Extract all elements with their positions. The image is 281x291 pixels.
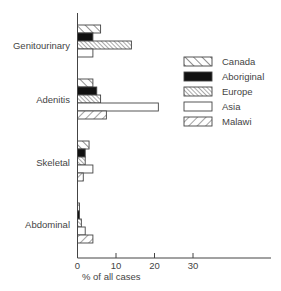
x-tick-label: 10 — [111, 260, 122, 271]
x-tick-label: 20 — [149, 260, 160, 271]
legend-swatch-asia — [184, 102, 212, 111]
bar-canada-genitourinary — [78, 25, 101, 33]
bars-group — [78, 25, 159, 243]
bar-europe-genitourinary — [78, 41, 132, 49]
bar-asia-genitourinary — [78, 49, 93, 57]
bar-malawi-skeletal — [78, 173, 84, 181]
legend-label-asia: Asia — [222, 101, 241, 112]
bar-chart: GenitourinaryAdenitisSkeletalAbdominal 0… — [0, 0, 281, 291]
bar-malawi-abdominal — [78, 235, 93, 243]
bar-europe-skeletal — [78, 157, 86, 165]
bar-europe-abdominal — [78, 219, 82, 227]
category-label: Genitourinary — [13, 40, 70, 51]
x-tick-label: 0 — [75, 260, 80, 271]
bar-asia-adenitis — [78, 103, 159, 111]
bar-aboriginal-genitourinary — [78, 33, 93, 41]
legend-label-europe: Europe — [222, 86, 253, 97]
legend-swatch-europe — [184, 87, 212, 96]
bar-aboriginal-skeletal — [78, 149, 86, 157]
legend-swatch-aboriginal — [184, 72, 212, 81]
legend: CanadaAboriginalEuropeAsiaMalawi — [184, 56, 264, 127]
x-tick-label: 30 — [188, 260, 199, 271]
category-label: Adenitis — [36, 94, 70, 105]
legend-swatch-canada — [184, 57, 212, 66]
legend-label-canada: Canada — [222, 56, 256, 67]
bar-canada-skeletal — [78, 141, 90, 149]
x-axis-label: % of all cases — [82, 271, 141, 282]
bar-asia-skeletal — [78, 165, 93, 173]
bar-asia-abdominal — [78, 227, 86, 235]
x-ticks: 0102030 — [75, 253, 198, 271]
bar-europe-adenitis — [78, 95, 101, 103]
category-labels: GenitourinaryAdenitisSkeletalAbdominal — [13, 40, 70, 230]
legend-label-malawi: Malawi — [222, 116, 252, 127]
bar-malawi-adenitis — [78, 111, 107, 119]
category-label: Abdominal — [25, 219, 70, 230]
category-label: Skeletal — [36, 157, 70, 168]
bar-canada-adenitis — [78, 79, 93, 87]
bar-aboriginal-adenitis — [78, 87, 97, 95]
legend-label-aboriginal: Aboriginal — [222, 71, 264, 82]
legend-swatch-malawi — [184, 117, 212, 126]
